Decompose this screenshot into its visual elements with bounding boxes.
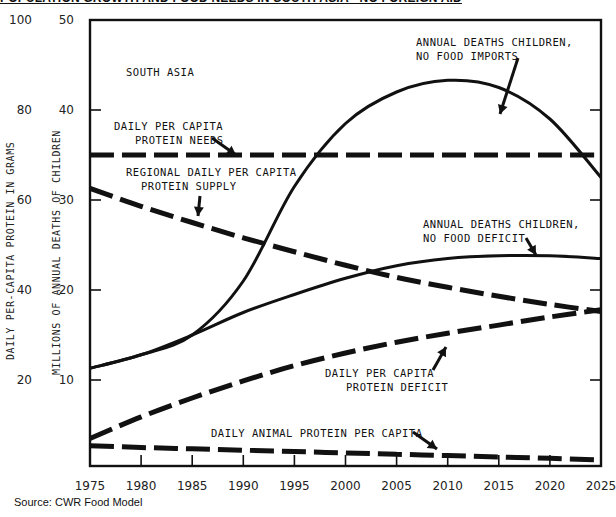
y-tick-label-protein: 100 xyxy=(9,13,32,27)
annotation-protein-supply-sub: PROTEIN SUPPLY xyxy=(141,180,237,192)
y-tick-label-protein: 80 xyxy=(17,103,32,117)
protein-supply-line xyxy=(90,188,601,311)
region-label: SOUTH ASIA xyxy=(126,66,194,78)
annotation-protein-needs-sub: PROTEIN NEEDS xyxy=(135,134,224,146)
annotation-no-food-imports-line: ANNUAL DEATHS CHILDREN, xyxy=(416,36,573,48)
annotation-protein-supply: REGIONAL DAILY PER CAPITA xyxy=(126,166,297,178)
annotation-no-food-deficit: ANNUAL DEATHS CHILDREN, xyxy=(423,218,580,230)
x-tick-label: 2015 xyxy=(484,479,515,493)
annotation-protein-needs-sub-line: PROTEIN NEEDS xyxy=(135,134,224,146)
annotation-protein-deficit-sub: PROTEIN DEFICIT xyxy=(346,381,449,393)
x-tick-label: 1985 xyxy=(177,479,208,493)
y-tick-label-deaths: 40 xyxy=(59,103,74,117)
x-tick-label: 1995 xyxy=(279,479,310,493)
annotation-protein-deficit-sub-line: PROTEIN DEFICIT xyxy=(346,381,449,393)
x-tick-label: 1990 xyxy=(228,479,259,493)
annotation-protein-deficit-line: DAILY PER CAPITA xyxy=(325,367,434,379)
x-tick-label: 1975 xyxy=(75,479,106,493)
annotation-protein-supply-sub-line: PROTEIN SUPPLY xyxy=(141,180,237,192)
annotations: SOUTH ASIAANNUAL DEATHS CHILDREN,NO FOOD… xyxy=(114,36,580,449)
annotation-no-food-deficit-line: ANNUAL DEATHS CHILDREN, xyxy=(423,218,580,230)
y-axis-title-protein: DAILY PER-CAPITA PROTEIN IN GRAMS xyxy=(5,142,16,360)
y-tick-label-deaths: 50 xyxy=(59,13,74,27)
arrow-protein-supply-head xyxy=(194,207,204,216)
annotation-no-food-imports-line: NO FOOD IMPORTS xyxy=(416,50,518,62)
y-tick-label-protein: 20 xyxy=(17,373,32,387)
annotation-animal-protein: DAILY ANIMAL PROTEIN PER CAPITA xyxy=(211,427,423,439)
source-note: Source: CWR Food Model xyxy=(14,496,142,508)
annotation-no-food-deficit-sub-line: NO FOOD DEFICIT xyxy=(423,232,526,244)
annotation-protein-needs-line: DAILY PER CAPITA xyxy=(114,120,223,132)
x-tick-label: 2000 xyxy=(330,479,361,493)
x-tick-label: 2020 xyxy=(535,479,566,493)
line-chart: 1975198019851990199520002005201020152020… xyxy=(0,0,616,517)
y-tick-label-protein: 60 xyxy=(17,193,32,207)
x-tick-label: 2005 xyxy=(381,479,412,493)
axis-ticks: 1975198019851990199520002005201020152020… xyxy=(5,13,616,493)
x-tick-label: 2025 xyxy=(586,479,616,493)
x-tick-label: 1980 xyxy=(126,479,157,493)
y-axis-title-deaths: MILLIONS OF ANNUAL DEATHS OF CHILDREN xyxy=(51,130,62,375)
annotation-protein-deficit: DAILY PER CAPITA xyxy=(325,367,434,379)
annotation-protein-needs: DAILY PER CAPITA xyxy=(114,120,223,132)
annotation-no-food-deficit-sub: NO FOOD DEFICIT xyxy=(423,232,526,244)
y-tick-label-protein: 40 xyxy=(17,283,32,297)
annotation-no-food-imports: ANNUAL DEATHS CHILDREN,NO FOOD IMPORTS xyxy=(416,36,573,62)
annotation-protein-supply-line: REGIONAL DAILY PER CAPITA xyxy=(126,166,297,178)
annotation-animal-protein-line: DAILY ANIMAL PROTEIN PER CAPITA xyxy=(211,427,423,439)
x-tick-label: 2010 xyxy=(432,479,463,493)
